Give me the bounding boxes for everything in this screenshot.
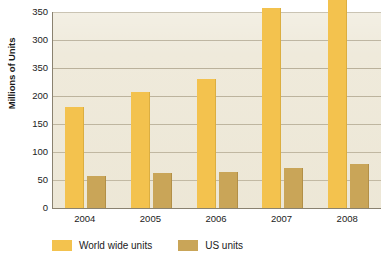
plot-area xyxy=(52,12,381,209)
y-tick-label: 100 xyxy=(14,147,48,157)
gridline xyxy=(53,208,381,209)
chart-legend: World wide unitsUS units xyxy=(52,236,243,254)
bar-group xyxy=(328,12,369,208)
legend-swatch-icon xyxy=(52,240,72,251)
bar-us-2007 xyxy=(284,168,303,208)
x-tick-label: 2006 xyxy=(183,213,249,224)
y-tick-label: 350 xyxy=(14,7,48,17)
y-tick-label: 300 xyxy=(14,35,48,45)
bar-group xyxy=(65,12,106,208)
y-tick-label: 150 xyxy=(14,119,48,129)
bar-worldwide-2008 xyxy=(328,0,347,208)
y-axis-tick-labels: 350300350200150100500 xyxy=(14,0,48,261)
bar-worldwide-2004 xyxy=(65,107,84,208)
y-tick-label: 200 xyxy=(14,91,48,101)
bar-worldwide-2006 xyxy=(197,79,216,208)
bar-chart-figure: Millions of Units 350300350200150100500 … xyxy=(0,0,387,261)
legend-label: US units xyxy=(205,240,243,251)
bar-worldwide-2007 xyxy=(262,8,281,208)
legend-label: World wide units xyxy=(79,240,152,251)
bar-worldwide-2005 xyxy=(131,92,150,208)
bar-group xyxy=(131,12,172,208)
x-tick-label: 2004 xyxy=(52,213,118,224)
legend-item: World wide units xyxy=(52,240,152,251)
legend-swatch-icon xyxy=(178,240,198,251)
y-tick-label: 0 xyxy=(14,203,48,213)
bar-us-2005 xyxy=(153,173,172,208)
x-tick-label: 2008 xyxy=(314,213,380,224)
bars-layer xyxy=(53,12,381,208)
legend-item: US units xyxy=(178,240,243,251)
bar-us-2008 xyxy=(350,164,369,208)
bar-group xyxy=(262,12,303,208)
x-tick-label: 2005 xyxy=(118,213,184,224)
bar-us-2004 xyxy=(87,176,106,208)
x-tick-label: 2007 xyxy=(249,213,315,224)
bar-group xyxy=(197,12,238,208)
bar-us-2006 xyxy=(219,172,238,208)
y-tick-label: 50 xyxy=(14,175,48,185)
y-tick-label: 350 xyxy=(14,63,48,73)
x-axis-tick-labels: 20042005200620072008 xyxy=(52,213,380,229)
